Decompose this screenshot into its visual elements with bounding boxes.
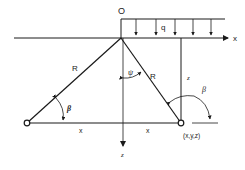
beta-left-label: β: [66, 104, 72, 113]
right-point-icon: [178, 120, 184, 126]
point-coordinates-label: (x,y,z): [183, 132, 200, 140]
radius-left-line: [27, 38, 121, 123]
beta-left-angle-arc: [56, 98, 63, 120]
origin-label: O: [118, 6, 125, 16]
z-axis-label: z: [120, 151, 124, 159]
beta-right-label: β: [201, 85, 206, 94]
left-point-icon: [24, 120, 30, 126]
x-axis-label: x: [233, 34, 237, 43]
load-q-label: q: [161, 23, 165, 32]
distance-right-label: x: [146, 127, 150, 134]
distance-left-label: x: [79, 127, 83, 134]
radius-left-label: R: [72, 64, 78, 73]
distributed-load: [121, 19, 225, 38]
radius-right-label: R: [150, 72, 156, 81]
psi-label: ψ: [128, 68, 134, 77]
stress-geometry-diagram: x O q z R R x x z ψ β β (x,y,z): [0, 0, 245, 170]
depth-z-label: z: [186, 74, 190, 82]
